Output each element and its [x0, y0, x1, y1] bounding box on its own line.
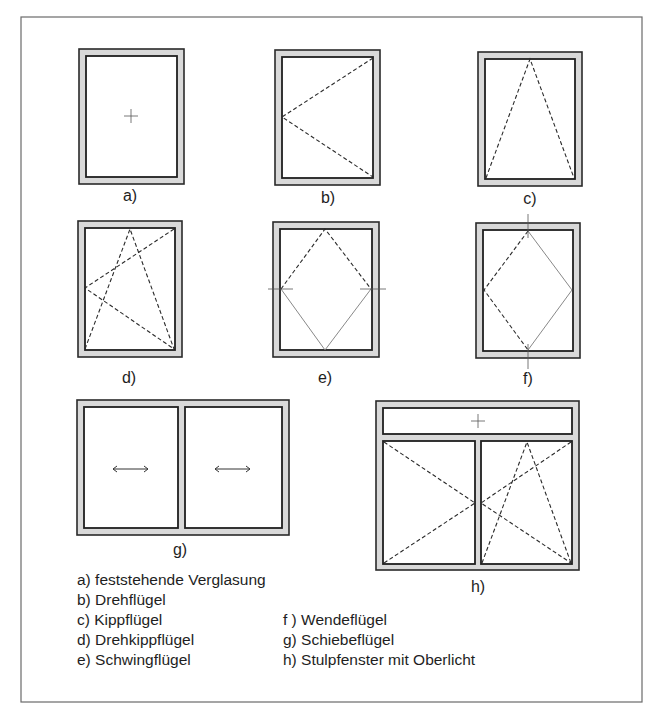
legend-item-f: f ) Wendeflügel [283, 611, 387, 628]
window-a-fixed-glazing: a) [79, 49, 184, 204]
left-sash [383, 441, 475, 564]
right-sash [481, 441, 572, 564]
legend-item-g: g) Schiebeflügel [283, 631, 394, 648]
window-b-side-hung: b) [275, 50, 380, 206]
legend-item-a: a) feststehende Verglasung [77, 571, 266, 588]
label-d: d) [122, 369, 136, 386]
legend-item-c: c) Kippflügel [77, 611, 162, 628]
window-c-bottom-hung: c) [478, 52, 582, 207]
window-types-diagram: a) b) c) d) e) f) [0, 0, 667, 715]
label-a: a) [123, 187, 137, 204]
window-h-double-casement-transom: h) [376, 401, 579, 595]
legend-item-d: d) Drehkippflügel [77, 631, 194, 648]
label-h: h) [471, 578, 485, 595]
label-c: c) [523, 190, 536, 207]
label-e: e) [318, 369, 332, 386]
legend-item-b: b) Drehflügel [77, 591, 166, 608]
label-f: f) [523, 370, 533, 387]
label-b: b) [321, 189, 335, 206]
window-g-sliding: g) [77, 400, 289, 558]
legend-item-h: h) Stulpfenster mit Oberlicht [283, 651, 476, 668]
legend-item-e: e) Schwingflügel [77, 651, 191, 668]
label-g: g) [173, 541, 187, 558]
